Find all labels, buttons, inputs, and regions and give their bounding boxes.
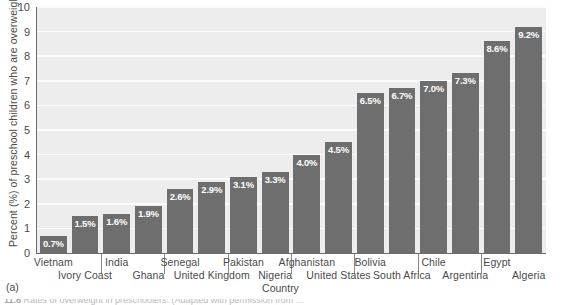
figure-caption-clipped: 11.6 Rates of overweight in preschoolers…	[0, 299, 561, 305]
bar-value-label: 6.7%	[389, 90, 416, 101]
x-axis-title: Country	[0, 282, 561, 294]
bar: 7.0%	[420, 81, 447, 253]
caption-number: 11.6	[4, 299, 21, 305]
bar: 1.5%	[72, 216, 99, 253]
bar: 1.9%	[135, 206, 162, 253]
y-axis-tick-label: 3	[0, 173, 30, 185]
x-axis-category-label: United Kingdom	[174, 269, 250, 281]
bar-value-label: 8.6%	[484, 43, 511, 54]
bar-value-label: 0.7%	[40, 238, 67, 249]
x-axis-category-label: Nigeria	[258, 269, 292, 281]
bar: 4.5%	[325, 142, 352, 253]
bar: 3.1%	[230, 177, 257, 253]
x-axis-category-label: United States	[306, 269, 370, 281]
bar-value-label: 6.5%	[357, 95, 384, 106]
bar-value-label: 9.2%	[515, 29, 542, 40]
x-axis-category-label: Vietnam	[34, 256, 73, 268]
y-axis-tick-label: 5	[0, 124, 30, 136]
bar: 3.3%	[262, 172, 289, 253]
y-axis-tick-label: 10	[0, 1, 30, 13]
y-axis-tick-label: 7	[0, 75, 30, 87]
y-axis-tick-label: 9	[0, 26, 30, 38]
bar: 9.2%	[515, 27, 542, 253]
x-axis-category-label: Chile	[421, 256, 445, 268]
bar-value-label: 1.6%	[103, 216, 130, 227]
bar-value-label: 4.0%	[293, 157, 320, 168]
y-axis-tick-label: 2	[0, 198, 30, 210]
bar: 4.0%	[293, 155, 320, 253]
bar: 0.7%	[40, 236, 67, 253]
bar: 1.6%	[103, 214, 130, 253]
bar-value-label: 4.5%	[325, 144, 352, 155]
x-axis-category-label: South Africa	[373, 269, 431, 281]
x-axis-category-label: Bolivia	[354, 256, 386, 268]
y-axis-tick-label: 8	[0, 50, 30, 62]
x-axis-category-label: Algeria	[512, 269, 545, 281]
x-axis-category-label: Senegal	[160, 256, 199, 268]
bar: 8.6%	[484, 41, 511, 253]
panel-tag: (a)	[6, 281, 19, 293]
x-axis-category-label: Pakistan	[223, 256, 264, 268]
caption-body: Rates of overweight in preschoolers. (Ad…	[24, 299, 304, 305]
bar-series: 0.7%1.5%1.6%1.9%2.6%2.9%3.1%3.3%4.0%4.5%…	[38, 7, 545, 253]
y-axis-tick-label: 6	[0, 99, 30, 111]
y-axis-tick-label: 0	[0, 247, 30, 259]
bar: 2.9%	[198, 182, 225, 253]
y-axis-tick-label: 1	[0, 222, 30, 234]
x-axis-category-label: Argentina	[442, 269, 488, 281]
bar: 2.6%	[167, 189, 194, 253]
bar: 6.7%	[389, 88, 416, 253]
bar: 6.5%	[357, 93, 384, 253]
bar: 7.3%	[452, 73, 479, 253]
bar-value-label: 3.1%	[230, 179, 257, 190]
x-axis-category-label: Afghanistan	[279, 256, 336, 268]
bar-value-label: 7.0%	[420, 83, 447, 94]
x-axis-category-label: India	[105, 256, 128, 268]
x-axis-category-label: Ivory Coast	[58, 269, 112, 281]
figure-panel-a: Percent (%) of preschool children who ar…	[0, 0, 561, 305]
bar-value-label: 3.3%	[262, 174, 289, 185]
bar-value-label: 7.3%	[452, 75, 479, 86]
x-axis-category-label: Egypt	[483, 256, 510, 268]
bar-value-label: 1.5%	[72, 218, 99, 229]
bar-value-label: 2.6%	[167, 191, 194, 202]
x-axis-category-label: Ghana	[132, 269, 164, 281]
y-axis-tick-label: 4	[0, 149, 30, 161]
bar-value-label: 1.9%	[135, 208, 162, 219]
caption-line: 11.6 Rates of overweight in preschoolers…	[4, 299, 303, 305]
bar-value-label: 2.9%	[198, 184, 225, 195]
